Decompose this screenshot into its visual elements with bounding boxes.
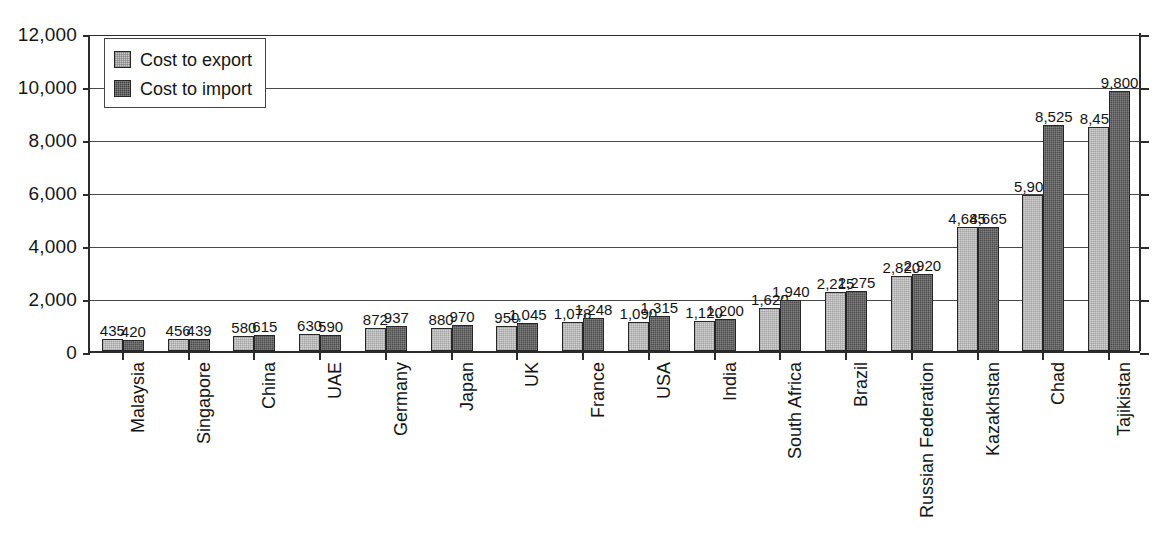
bar-import: 1,200 bbox=[715, 319, 736, 351]
x-axis-category-label: Singapore bbox=[195, 362, 213, 444]
y-axis-tick bbox=[83, 35, 90, 37]
x-axis-category-text: UK bbox=[523, 362, 541, 387]
x-axis-category-text: Kazakhstan bbox=[984, 362, 1002, 456]
y-axis-tick-label: 12,000 bbox=[5, 25, 77, 44]
bar-import: 420 bbox=[123, 340, 144, 351]
bar-import: 4,665 bbox=[978, 227, 999, 351]
y-axis-tick bbox=[83, 88, 90, 90]
legend-label-import: Cost to import bbox=[140, 80, 252, 98]
bar-export: 580 bbox=[233, 336, 254, 351]
bar-pair: 2,8202,920 bbox=[891, 33, 933, 351]
x-axis-category-text: Tajikistan bbox=[1115, 362, 1133, 436]
x-axis-category-text: France bbox=[589, 362, 607, 418]
y-axis-tick bbox=[83, 141, 90, 143]
bar-pair: 4,6854,665 bbox=[957, 33, 999, 351]
bar-pair: 1,1201,200 bbox=[694, 33, 736, 351]
y-axis-tick bbox=[83, 300, 90, 302]
x-axis-category-label: Kazakhstan bbox=[984, 362, 1002, 456]
y-axis-tick-label: 4,000 bbox=[5, 237, 77, 256]
x-axis-tick bbox=[451, 351, 453, 360]
bar-pair: 1,6201,940 bbox=[759, 33, 801, 351]
x-axis-category-label: Japan bbox=[458, 362, 476, 411]
bar-pair: 5,9028,525 bbox=[1022, 33, 1064, 351]
bar-value-label: 970 bbox=[450, 309, 475, 325]
bar-pair: 630590 bbox=[299, 33, 341, 351]
x-axis-category-text: India bbox=[721, 362, 739, 401]
x-axis-tick bbox=[516, 351, 518, 360]
bar-pair: 2,2152,275 bbox=[825, 33, 867, 351]
bar-import: 970 bbox=[452, 325, 473, 351]
x-axis-tick bbox=[582, 351, 584, 360]
bar-group: 5,9028,525 bbox=[1011, 33, 1077, 351]
y-axis-tick bbox=[83, 194, 90, 196]
bar-value-label: 1,045 bbox=[509, 307, 547, 323]
bar-import: 8,525 bbox=[1043, 125, 1064, 351]
x-axis-category-label: China bbox=[260, 362, 278, 409]
bar-import: 1,940 bbox=[780, 300, 801, 351]
x-axis-tick bbox=[188, 351, 190, 360]
x-axis-category-label: South Africa bbox=[786, 362, 804, 459]
bar-import: 439 bbox=[189, 339, 210, 351]
x-axis-tick bbox=[319, 351, 321, 360]
y-axis-tick-label: 2,000 bbox=[5, 290, 77, 309]
bar-group: 1,0901,315 bbox=[616, 33, 682, 351]
bar-pair: 872937 bbox=[365, 33, 407, 351]
bar-value-label: 1,248 bbox=[575, 302, 613, 318]
x-axis-category-text: Russian Federation bbox=[918, 362, 936, 518]
x-axis-tick bbox=[977, 351, 979, 360]
bar-group: 1,0781,248 bbox=[550, 33, 616, 351]
y-axis-tick bbox=[83, 353, 90, 355]
x-axis-tick bbox=[911, 351, 913, 360]
bar-export: 2,820 bbox=[891, 276, 912, 351]
bar-export: 1,090 bbox=[628, 322, 649, 351]
bar-value-label: 2,275 bbox=[838, 275, 876, 291]
bar-value-label: 615 bbox=[252, 319, 277, 335]
legend-swatch-import-icon bbox=[114, 80, 131, 97]
x-axis-category-text: Germany bbox=[392, 362, 410, 436]
x-axis-tick bbox=[385, 351, 387, 360]
bar-export: 435 bbox=[102, 339, 123, 351]
bar-value-label: 937 bbox=[384, 310, 409, 326]
x-axis-category-label: Russian Federation bbox=[918, 362, 936, 518]
bar-pair: 9501,045 bbox=[496, 33, 538, 351]
x-axis-category-label: India bbox=[721, 362, 739, 401]
x-axis-category-label: UK bbox=[523, 362, 541, 387]
bar-export: 5,902 bbox=[1022, 195, 1043, 351]
bar-import: 1,315 bbox=[649, 316, 670, 351]
bar-import: 937 bbox=[386, 326, 407, 351]
bar-group: 880970 bbox=[419, 33, 485, 351]
y-axis-tick-label: 10,000 bbox=[5, 78, 77, 97]
bar-import: 2,275 bbox=[846, 291, 867, 351]
bar-export: 8,450 bbox=[1088, 127, 1109, 351]
x-axis-category-label: Malaysia bbox=[129, 362, 147, 433]
bar-export: 2,215 bbox=[825, 292, 846, 351]
bar-export: 950 bbox=[496, 326, 517, 351]
bar-group: 8,4509,800 bbox=[1076, 33, 1142, 351]
x-axis-tick bbox=[845, 351, 847, 360]
bar-export: 630 bbox=[299, 334, 320, 351]
x-axis-category-text: Brazil bbox=[852, 362, 870, 407]
bar-pair: 880970 bbox=[431, 33, 473, 351]
bar-value-label: 1,200 bbox=[706, 303, 744, 319]
bar-value-label: 420 bbox=[121, 324, 146, 340]
bar-value-label: 4,665 bbox=[969, 211, 1007, 227]
bar-export: 1,620 bbox=[759, 308, 780, 351]
x-axis-tick bbox=[253, 351, 255, 360]
x-axis-tick bbox=[1108, 351, 1110, 360]
y-axis-tick-label: 8,000 bbox=[5, 131, 77, 150]
x-axis-category-label: USA bbox=[655, 362, 673, 399]
x-axis-tick bbox=[714, 351, 716, 360]
bar-import: 615 bbox=[254, 335, 275, 351]
bar-export: 880 bbox=[431, 328, 452, 351]
x-axis-category-label: Germany bbox=[392, 362, 410, 436]
bar-chart: 12,00010,0008,0006,0004,0002,0000 435420… bbox=[0, 0, 1170, 545]
y-axis-tick-right bbox=[1140, 353, 1149, 355]
x-axis-category-text: Singapore bbox=[195, 362, 213, 444]
legend-item-cost-to-export: Cost to export bbox=[114, 45, 265, 74]
bar-pair: 1,0901,315 bbox=[628, 33, 670, 351]
y-axis-tick-label: 0 bbox=[5, 343, 77, 362]
bar-import: 1,045 bbox=[517, 323, 538, 351]
bar-value-label: 2,920 bbox=[904, 258, 942, 274]
bar-value-label: 1,315 bbox=[641, 300, 679, 316]
x-axis-tick bbox=[779, 351, 781, 360]
